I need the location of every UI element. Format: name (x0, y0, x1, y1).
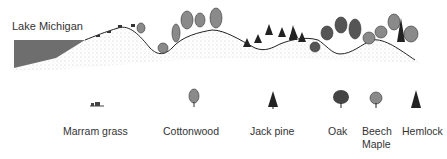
cottonwood-icon (188, 88, 200, 108)
legend-maple: Maple (362, 138, 391, 150)
legend-marram-grass: Marram grass (63, 125, 128, 137)
legend-beech: Beech (362, 125, 392, 137)
legend-jack-pine: Jack pine (250, 125, 294, 137)
dune-cross-section (0, 0, 447, 100)
oak-icon (332, 89, 350, 109)
legend-hemlock: Hemlock (402, 125, 443, 137)
lake-label: Lake Michigan (12, 20, 83, 32)
marram-grass-icon (90, 101, 104, 107)
legend-oak: Oak (328, 125, 347, 137)
hemlock-icon (409, 90, 423, 110)
jack-pine-icon (266, 90, 280, 110)
legend-cottonwood: Cottonwood (163, 125, 219, 137)
beech-maple-icon (368, 91, 384, 109)
